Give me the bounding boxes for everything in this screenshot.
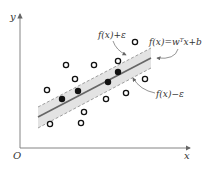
open-data-point: [115, 58, 120, 63]
open-data-point: [47, 121, 52, 126]
filled-data-point: [75, 88, 81, 94]
open-data-point: [142, 76, 147, 81]
open-data-point: [132, 39, 137, 44]
open-data-point: [78, 120, 83, 125]
y-axis-label: y: [9, 11, 16, 22]
origin-label: O: [13, 150, 21, 161]
filled-data-point: [105, 79, 111, 85]
lower-bound-label: f(x)−ε: [155, 89, 184, 99]
svr-diagram: y x O f(x)+ε f(x)=wᵀx+b f(x)−ε: [0, 0, 206, 170]
filled-data-point: [59, 96, 65, 102]
regression-function-label: f(x)=wᵀx+b: [148, 37, 202, 47]
open-data-point: [72, 76, 77, 81]
upper-bound-label: f(x)+ε: [97, 30, 126, 40]
filled-data-point: [115, 69, 121, 75]
upper-bound-arrow: [113, 41, 126, 55]
open-data-point: [63, 62, 68, 67]
open-data-point: [91, 62, 96, 67]
open-data-point: [81, 109, 86, 114]
x-axis-label: x: [184, 150, 190, 161]
open-data-point: [44, 87, 49, 92]
open-data-point: [123, 90, 128, 95]
open-data-point: [103, 96, 108, 101]
regression-function-arrow: [157, 49, 178, 58]
